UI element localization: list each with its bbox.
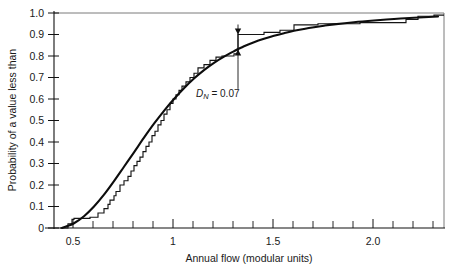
y-tick-label: 0 — [38, 222, 44, 234]
x-tick-label: 0.5 — [66, 235, 81, 247]
dn-label: DN = 0.07 — [196, 88, 240, 102]
y-tick-label: 0.6 — [29, 93, 44, 105]
y-tick-label: 0.9 — [29, 28, 44, 40]
y-tick-labels: 1.0 0.9 0.8 0.7 0.6 0.5 0.4 0.3 0.2 0.1 … — [29, 7, 44, 234]
y-tick-label: 0.8 — [29, 50, 44, 62]
x-tick-marks-minor — [93, 221, 433, 228]
x-axis-title: Annual flow (modular units) — [185, 252, 312, 264]
y-tick-label: 0.1 — [29, 200, 44, 212]
empirical-step-cdf — [60, 15, 444, 228]
x-tick-label: 1.5 — [266, 235, 281, 247]
x-tick-label: 2.0 — [366, 235, 381, 247]
y-tick-label: 0.4 — [29, 136, 44, 148]
cdf-chart: 1.0 0.9 0.8 0.7 0.6 0.5 0.4 0.3 0.2 0.1 … — [0, 0, 458, 266]
x-tick-marks-major — [73, 219, 373, 228]
figure-container: 1.0 0.9 0.8 0.7 0.6 0.5 0.4 0.3 0.2 0.1 … — [0, 0, 458, 266]
dn-annotation: DN = 0.07 — [196, 25, 241, 102]
y-tick-label: 0.5 — [29, 114, 44, 126]
y-tick-label: 0.2 — [29, 179, 44, 191]
y-tick-label: 0.7 — [29, 71, 44, 83]
theoretical-cdf-curve — [62, 16, 438, 228]
y-tick-label: 1.0 — [29, 7, 44, 19]
x-tick-label: 1 — [170, 235, 176, 247]
y-axis-title: Probability of a value less than — [6, 49, 18, 192]
x-tick-labels: 0.5 1 1.5 2.0 — [66, 235, 381, 247]
dn-arrow-head-top — [235, 29, 241, 35]
y-tick-label: 0.3 — [29, 157, 44, 169]
